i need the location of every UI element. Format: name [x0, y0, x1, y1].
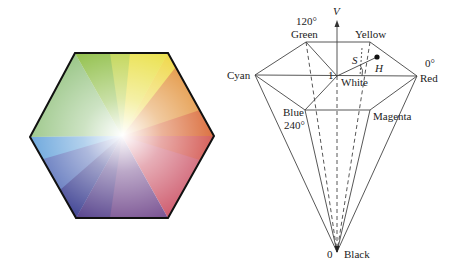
edge-magenta-black — [337, 110, 370, 252]
label-cyan: Cyan — [227, 69, 251, 81]
label-green-angle: 120° — [296, 15, 317, 27]
label-red: Red — [420, 72, 438, 84]
hexcone-diagram — [255, 24, 417, 252]
black-apex-arrow-icon — [335, 246, 340, 253]
label-black-value: 0 — [327, 248, 333, 260]
label-white: White — [341, 76, 368, 88]
label-blue-angle: 240° — [284, 119, 305, 131]
label-blue: Blue — [283, 106, 304, 118]
edge-cyan-black — [255, 75, 337, 252]
label-green: Green — [291, 28, 318, 40]
hsv-figure: V 120° Green Yellow Cyan 0° Red 1 White … — [0, 0, 462, 274]
edge-blue-black — [305, 110, 337, 252]
color-hexagon — [20, 40, 225, 230]
label-black: Black — [344, 248, 370, 260]
edge-red-black — [337, 76, 417, 252]
axis-label-v: V — [333, 5, 341, 17]
hsv-point — [374, 54, 379, 59]
label-s: S — [352, 54, 358, 66]
hue-arc — [360, 65, 363, 76]
label-magenta: Magenta — [373, 110, 412, 122]
label-white-value: 1 — [328, 69, 334, 81]
label-h: H — [374, 62, 384, 74]
label-red-angle: 0° — [425, 57, 435, 69]
arrow-up-icon — [335, 20, 340, 27]
label-yellow: Yellow — [355, 28, 386, 40]
